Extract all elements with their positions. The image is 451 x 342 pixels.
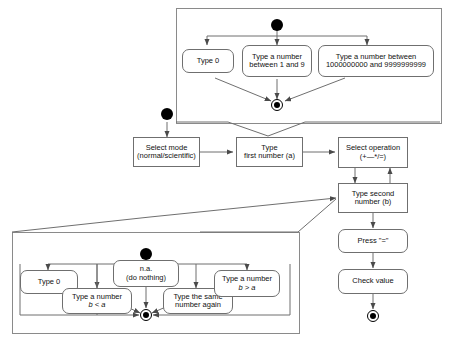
activity-type-first-number[interactable]: Type first number (a): [236, 137, 303, 167]
activity-no-action[interactable]: n.a. (do nothing): [113, 260, 179, 287]
initial-state-node-bottom: [140, 248, 152, 260]
activity-type-large-number[interactable]: Type a number between 1000000000 and 999…: [318, 45, 434, 77]
activity-line-2: number (b): [355, 198, 392, 206]
final-state-core-main: [370, 313, 376, 319]
activity-type-number-b-less-than-a[interactable]: Type a number b < a: [62, 288, 132, 314]
activity-line-1: Check value: [352, 277, 393, 285]
activity-line-2: b < a: [89, 301, 106, 309]
activity-type-zero-first[interactable]: Type 0: [182, 49, 234, 73]
activity-line-1: Type 0: [197, 57, 220, 65]
activity-line-2: (+—*/=): [360, 153, 386, 161]
activity-line-1: Press "=": [358, 237, 389, 245]
activity-line-2: (do nothing): [126, 274, 166, 282]
activity-line-2: b > a: [239, 284, 256, 292]
activity-line-2: first number (a): [244, 152, 295, 160]
initial-state-node-top: [271, 19, 283, 31]
activity-line-1: Type 0: [38, 278, 61, 286]
activity-line-2: 1000000000 and 9999999999: [326, 61, 426, 69]
activity-type-number-1-to-9[interactable]: Type a number between 1 and 9: [242, 45, 312, 77]
activity-type-second-number[interactable]: Type second number (b): [338, 183, 408, 213]
activity-select-mode[interactable]: Select mode (normal/scientific): [133, 137, 200, 167]
initial-state-node-main: [161, 108, 173, 120]
diagram-canvas: Type 0 Type a number between 1 and 9 Typ…: [0, 0, 451, 342]
activity-press-equals[interactable]: Press "=": [338, 229, 408, 253]
activity-line-2: between 1 and 9: [249, 61, 304, 69]
final-state-core-bottom: [143, 312, 149, 318]
activity-check-value[interactable]: Check value: [338, 269, 408, 294]
activity-line-2: (normal/scientific): [137, 152, 196, 160]
activity-select-operation[interactable]: Select operation (+—*/=): [338, 137, 408, 168]
activity-line-2: number again: [175, 301, 221, 309]
final-state-core-top: [274, 102, 280, 108]
activity-type-number-b-greater-than-a[interactable]: Type a number b > a: [214, 270, 280, 297]
